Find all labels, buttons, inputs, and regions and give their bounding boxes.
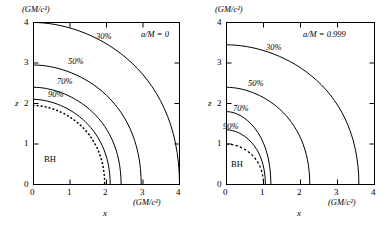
curve-label-90: 90%	[223, 122, 239, 131]
y-axis-label: z	[208, 99, 212, 108]
x-tick-1: 1	[260, 188, 265, 197]
x-tick-3: 3	[334, 188, 339, 197]
x-tick-4: 4	[371, 188, 376, 197]
y-tick-3: 3	[24, 58, 29, 67]
plot-axes-right	[193, 0, 386, 226]
y-tick-4: 4	[24, 18, 29, 27]
y-tick-0: 0	[217, 180, 222, 189]
figure-root: (GM/c²) (GM/c²) 4 3 2 1 0 0 1 2 3 4 z x …	[0, 0, 386, 226]
x-axis-unit-label: (GM/c²)	[328, 198, 356, 207]
curve-label-30: 30%	[96, 32, 112, 41]
y-tick-0: 0	[24, 180, 29, 189]
contour-50	[227, 87, 310, 184]
bh-region-label: BH	[231, 160, 243, 169]
contour-90	[34, 99, 111, 184]
contour-curves	[227, 45, 359, 185]
y-tick-1: 1	[217, 139, 222, 148]
y-tick-1: 1	[24, 139, 29, 148]
curve-label-50: 50%	[68, 57, 84, 66]
plot-panel-left: (GM/c²) (GM/c²) 4 3 2 1 0 0 1 2 3 4 z x …	[0, 0, 193, 226]
spin-parameter-label: a/M = 0	[141, 30, 169, 39]
x-tick-0: 0	[223, 188, 228, 197]
curve-label-50: 50%	[248, 79, 264, 88]
curve-label-90: 90%	[48, 90, 64, 99]
x-tick-1: 1	[67, 188, 72, 197]
y-tick-2: 2	[24, 99, 29, 108]
y-tick-2: 2	[217, 99, 222, 108]
y-axis-unit-label: (GM/c²)	[215, 5, 243, 14]
y-axis-unit-label: (GM/c²)	[22, 5, 50, 14]
y-tick-4: 4	[217, 18, 222, 27]
y-tick-3: 3	[217, 58, 222, 67]
bh-horizon-curve	[34, 106, 105, 185]
x-tick-2: 2	[297, 188, 302, 197]
x-axis-label: x	[103, 209, 107, 218]
x-tick-4: 4	[176, 188, 181, 197]
curve-label-70: 70%	[233, 104, 249, 113]
bh-region-label: BH	[44, 155, 56, 164]
x-axis-label: x	[297, 209, 301, 218]
contour-30	[227, 45, 359, 185]
x-tick-0: 0	[30, 188, 35, 197]
spin-parameter-label: a/M = 0.999	[303, 30, 346, 39]
y-axis-label: z	[15, 99, 19, 108]
contour-50	[34, 65, 142, 185]
contour-90	[227, 130, 266, 185]
x-tick-2: 2	[103, 188, 108, 197]
x-axis-unit-label: (GM/c²)	[133, 198, 161, 207]
curve-label-30: 30%	[266, 43, 282, 52]
x-tick-3: 3	[140, 188, 145, 197]
contour-70	[34, 87, 122, 184]
curve-label-70: 70%	[57, 77, 73, 86]
plot-panel-right: (GM/c²) (GM/c²) 4 3 2 1 0 0 1 2 3 4 z x …	[193, 0, 386, 226]
